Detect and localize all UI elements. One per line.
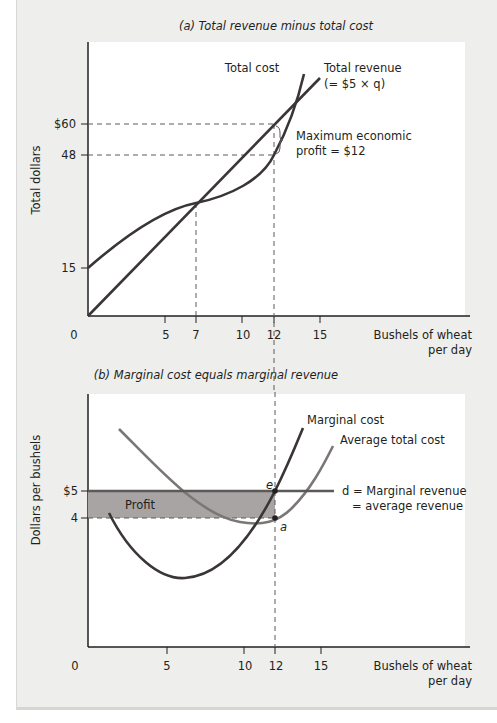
demand-label-line2: = average revenue — [352, 499, 463, 513]
bottom-x-tick-10: 10 — [238, 659, 253, 673]
top-x-tick-5: 5 — [162, 328, 169, 342]
max-profit-label-line2: profit = $12 — [296, 144, 365, 158]
average-total-cost-label: Average total cost — [340, 433, 445, 447]
top-x-tick-10: 10 — [236, 328, 251, 342]
profit-label: Profit — [125, 498, 155, 512]
total-revenue-label-line1: Total revenue — [323, 61, 402, 75]
bottom-y-tick-4: 4 — [71, 511, 78, 525]
top-chart-title: (a) Total revenue minus total cost — [179, 19, 374, 33]
top-y-axis-label: Total dollars — [29, 145, 43, 215]
bottom-x-tick-5: 5 — [163, 659, 170, 673]
top-plot-area — [88, 42, 465, 316]
bottom-plot-area — [88, 394, 465, 647]
demand-label-line1: d = Marginal revenue — [342, 484, 467, 498]
top-x-tick-7: 7 — [192, 328, 199, 342]
bottom-chart-title: (b) Marginal cost equals marginal revenu… — [94, 368, 338, 382]
top-y-tick-15: 15 — [61, 261, 76, 275]
bottom-x-axis-label-line2: per day — [428, 674, 472, 688]
bottom-y-axis-label: Dollars per bushels — [29, 435, 43, 546]
point-a-label: a — [280, 520, 287, 534]
top-x-axis-label-line2: per day — [428, 343, 472, 357]
total-cost-label: Total cost — [224, 61, 280, 75]
top-y-tick-48: 48 — [61, 148, 76, 162]
bottom-x-axis-label-line1: Bushels of wheat — [374, 659, 473, 673]
marginal-cost-label: Marginal cost — [307, 413, 385, 427]
profit-area — [88, 491, 275, 518]
point-e-label: e — [266, 478, 273, 492]
total-revenue-label-line2: (= $5 × q) — [324, 77, 385, 91]
top-x-tick-15: 15 — [313, 328, 328, 342]
bottom-y-tick-5: $5 — [63, 484, 78, 498]
bottom-x-tick-12: 12 — [269, 659, 284, 673]
top-x-axis-label-line1: Bushels of wheat — [374, 328, 473, 342]
max-profit-label-line1: Maximum economic — [296, 129, 412, 143]
bottom-x-tick-0: 0 — [71, 659, 78, 673]
top-y-tick-60: $60 — [54, 117, 76, 131]
bottom-x-tick-15: 15 — [314, 659, 329, 673]
point-a-marker — [272, 515, 278, 521]
top-x-tick-0: 0 — [70, 328, 77, 342]
